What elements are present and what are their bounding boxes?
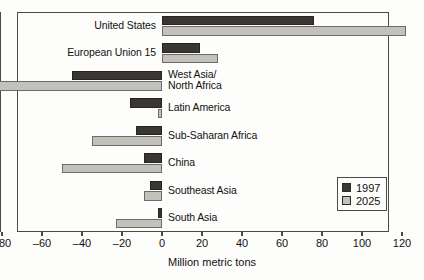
bar-2025-south-asia bbox=[116, 219, 162, 229]
x-tick-label-neg40: –40 bbox=[73, 237, 91, 249]
x-tick-neg60 bbox=[41, 232, 42, 236]
x-tick-label-100: 100 bbox=[353, 237, 371, 249]
legend-item-1997[interactable]: 1997 bbox=[342, 181, 380, 194]
x-tick-label-0: 0 bbox=[159, 237, 165, 249]
bar-1997-european-union-15 bbox=[162, 43, 200, 53]
x-tick-label-40: 40 bbox=[236, 237, 248, 249]
x-tick-40 bbox=[241, 232, 242, 236]
category-label-european-union-15: European Union 15 bbox=[17, 47, 156, 59]
x-tick-100 bbox=[361, 232, 362, 236]
x-tick-20 bbox=[201, 232, 202, 236]
bar-2025-china bbox=[62, 164, 162, 174]
bar-2025-latin-america bbox=[158, 109, 162, 119]
x-tick-label-80: 80 bbox=[316, 237, 328, 249]
x-tick-label-120: 120 bbox=[393, 237, 411, 249]
plot-frame bbox=[17, 12, 389, 232]
x-tick-label-neg60: –60 bbox=[33, 237, 51, 249]
bar-2025-sub-saharan-africa bbox=[92, 136, 162, 146]
x-tick-60 bbox=[281, 232, 282, 236]
legend: 1997 2025 bbox=[337, 177, 387, 211]
x-axis-title: Million metric tons bbox=[0, 256, 424, 268]
bar-1997-united-states bbox=[162, 16, 314, 26]
category-label-southeast-asia: Southeast Asia bbox=[168, 185, 328, 197]
legend-item-2025[interactable]: 2025 bbox=[342, 194, 380, 207]
x-tick-label-neg80: –80 bbox=[0, 237, 11, 249]
category-label-latin-america: Latin America bbox=[168, 102, 328, 114]
category-label-china: China bbox=[168, 157, 328, 169]
x-tick-neg20 bbox=[121, 232, 122, 236]
bar-1997-sub-saharan-africa bbox=[136, 126, 162, 136]
legend-label-1997: 1997 bbox=[356, 182, 380, 194]
bar-2025-european-union-15 bbox=[162, 54, 218, 64]
x-tick-label-neg20: –20 bbox=[113, 237, 131, 249]
x-tick-120 bbox=[401, 232, 402, 236]
category-label-sub-saharan-africa: Sub-Saharan Africa bbox=[168, 130, 328, 142]
bar-1997-southeast-asia bbox=[150, 181, 162, 191]
x-tick-neg40 bbox=[81, 232, 82, 236]
bar-chart: United StatesEuropean Union 15West Asia/… bbox=[0, 0, 424, 280]
category-label-united-states: United States bbox=[17, 20, 156, 32]
x-tick-label-60: 60 bbox=[276, 237, 288, 249]
legend-swatch-1997-icon bbox=[342, 183, 351, 192]
bar-1997-west-asia-north-africa bbox=[72, 71, 162, 81]
x-tick-neg80 bbox=[1, 232, 2, 236]
bar-1997-south-asia bbox=[158, 208, 162, 218]
x-tick-label-20: 20 bbox=[196, 237, 208, 249]
bar-1997-china bbox=[144, 153, 162, 163]
legend-swatch-2025-icon bbox=[342, 196, 351, 205]
zero-axis-line bbox=[0, 12, 1, 232]
bar-2025-southeast-asia bbox=[144, 191, 162, 201]
x-tick-80 bbox=[321, 232, 322, 236]
category-label-south-asia: South Asia bbox=[168, 212, 328, 224]
bar-2025-united-states bbox=[162, 26, 406, 36]
bar-2025-west-asia-north-africa bbox=[0, 81, 162, 91]
legend-label-2025: 2025 bbox=[356, 195, 380, 207]
category-label-west-asia-north-africa: West Asia/ North Africa bbox=[168, 69, 328, 92]
bar-1997-latin-america bbox=[130, 98, 162, 108]
x-tick-0 bbox=[161, 232, 162, 236]
